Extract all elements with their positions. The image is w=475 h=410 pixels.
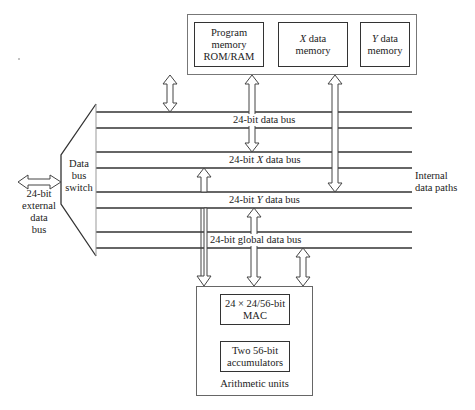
data-bus-switch-label: Databusswitch (62, 158, 96, 194)
internal-data-paths-label: Internaldata paths (415, 170, 457, 194)
arith-input-arrow-left-icon (197, 208, 211, 286)
mac-label-1: 24 × 24/56-bit (225, 298, 285, 310)
y-data-bus-label: 24-bit Y data bus (227, 194, 302, 206)
x-data-memory-label-1: X data (300, 33, 327, 45)
y-memory-arrow-icon (328, 75, 342, 192)
mac-label-2: MAC (243, 310, 267, 322)
arithmetic-units-label: Arithmetic units (196, 378, 313, 390)
program-memory-label-1: Program (211, 27, 247, 39)
accumulators-label-2: accumulators (227, 357, 283, 369)
arith-global-arrow-icon (296, 248, 310, 286)
program-memory-label-3: ROM/RAM (204, 51, 255, 63)
accumulators-box: Two 56-bit accumulators (220, 341, 290, 372)
x-data-memory-box: X data memory (278, 22, 348, 67)
y-data-memory-box: Y data memory (360, 22, 410, 67)
program-memory-label-2: memory (212, 39, 247, 51)
program-memory-box: Program memory ROM/RAM (194, 22, 264, 67)
mac-box: 24 × 24/56-bit MAC (220, 294, 290, 325)
data-bus-label: 24-bit data bus (231, 114, 297, 126)
x-data-bus-label: 24-bit X data bus (227, 154, 302, 166)
y-data-memory-label-2: memory (368, 45, 403, 57)
accumulators-label-1: Two 56-bit (232, 345, 278, 357)
global-data-bus-label: 24-bit global data bus (208, 234, 303, 246)
external-bus-arrow-icon (18, 175, 61, 189)
arith-y-arrow-icon (247, 208, 261, 286)
x-data-memory-label-2: memory (296, 45, 331, 57)
program-memory-arrow-icon (163, 75, 177, 112)
y-data-memory-label-1: Y data (372, 33, 398, 45)
external-bus-label: 24-bitexternaldatabus (14, 188, 64, 236)
y-to-x-arrow-icon (197, 168, 211, 192)
